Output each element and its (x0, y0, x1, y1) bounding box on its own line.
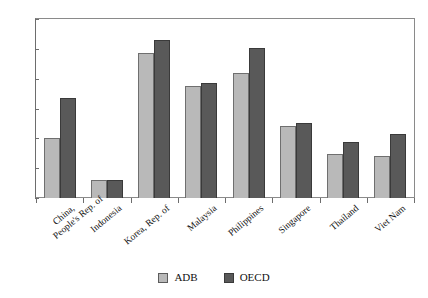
chart-legend: ADBOECD (0, 272, 428, 283)
bar-group (367, 19, 414, 198)
x-tick-mark (414, 198, 415, 203)
bar-oecd (201, 83, 217, 198)
legend-swatch-icon (158, 273, 168, 283)
bar-group (83, 19, 130, 198)
y-axis: 302520151050 (0, 0, 35, 198)
legend-label: OECD (240, 272, 270, 283)
legend-swatch-icon (224, 273, 234, 283)
bar-oecd (343, 142, 359, 198)
bar-adb (138, 53, 154, 198)
x-axis-labels: China, People's Rep. ofIndonesiaKorea, R… (36, 203, 414, 263)
bar-group (131, 19, 178, 198)
bar-adb (374, 156, 390, 198)
bar-group (178, 19, 225, 198)
legend-item-oecd[interactable]: OECD (224, 272, 270, 283)
bars-area (36, 19, 414, 198)
bar-chart: 302520151050 China, People's Rep. ofIndo… (0, 0, 428, 298)
bar-group (320, 19, 367, 198)
bar-adb (327, 154, 343, 198)
bar-adb (44, 138, 60, 198)
bar-oecd (107, 180, 123, 198)
bar-adb (233, 73, 249, 198)
legend-label: ADB (174, 272, 197, 283)
bar-oecd (390, 134, 406, 198)
bar-group (36, 19, 83, 198)
bar-oecd (154, 40, 170, 198)
bar-adb (280, 126, 296, 198)
bar-adb (185, 86, 201, 198)
legend-item-adb[interactable]: ADB (158, 272, 197, 283)
bar-oecd (249, 48, 265, 198)
bar-group (225, 19, 272, 198)
bar-oecd (60, 98, 76, 198)
bar-oecd (296, 123, 312, 198)
bar-group (272, 19, 319, 198)
